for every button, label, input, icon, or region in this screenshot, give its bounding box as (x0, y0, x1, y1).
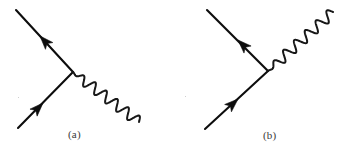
panel-caption-a: (a) (68, 128, 81, 140)
figure-root: (a) (b) (0, 0, 347, 149)
outgoing-fermion-line-b (207, 10, 268, 71)
scan-speck (185, 96, 186, 97)
photon-wavy-line-a (73, 72, 140, 122)
photon-wavy-line-b (268, 10, 333, 71)
diagram-panel-b (205, 10, 333, 129)
panel-caption-b: (b) (263, 129, 276, 141)
feynman-diagram-canvas (0, 0, 347, 149)
diagram-panel-a (16, 10, 140, 128)
incoming-fermion-line-a (18, 72, 73, 128)
scan-speck (18, 97, 19, 98)
